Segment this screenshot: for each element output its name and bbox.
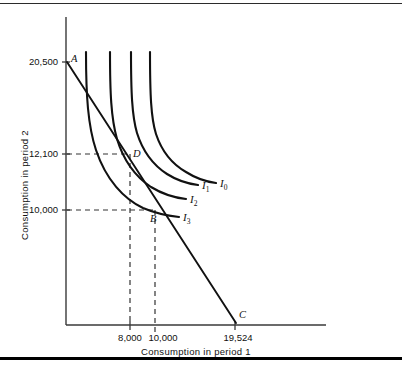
figure-container: 20,500 12,100 10,000 8,000 10,000 19,524… [0, 0, 402, 370]
point-label-b: B [150, 213, 157, 224]
chart-svg: 20,500 12,100 10,000 8,000 10,000 19,524… [0, 0, 402, 370]
curve-label-i3: I3 [182, 211, 191, 226]
curve-label-i0-sub: 0 [224, 183, 228, 192]
point-label-a: A [70, 53, 78, 64]
curve-label-i2-sub: 2 [194, 199, 198, 208]
x-tick-label-10000: 10,000 [148, 332, 177, 343]
y-axis-title: Consumption in period 2 [19, 130, 30, 240]
indifference-curve-i1 [131, 52, 198, 185]
y-tick-label-12100: 12,100 [29, 148, 58, 159]
curve-label-i1-sub: 1 [206, 185, 210, 194]
indifference-curve-i0 [150, 52, 216, 183]
point-label-c: C [239, 309, 247, 320]
curve-label-i3-sub: 3 [187, 217, 191, 226]
x-tick-label-8000: 8,000 [118, 332, 142, 343]
indifference-curve-i3 [86, 52, 179, 217]
curve-label-i0: I0 [219, 177, 228, 192]
point-label-d: D [132, 148, 141, 159]
x-tick-label-19524: 19,524 [223, 332, 252, 343]
y-tick-label-10000: 10,000 [29, 204, 58, 215]
curve-label-i2: I2 [189, 193, 198, 208]
y-tick-label-20500: 20,500 [29, 56, 58, 67]
indifference-curve-i2 [110, 52, 186, 199]
x-axis-title: Consumption in period 1 [141, 346, 251, 357]
